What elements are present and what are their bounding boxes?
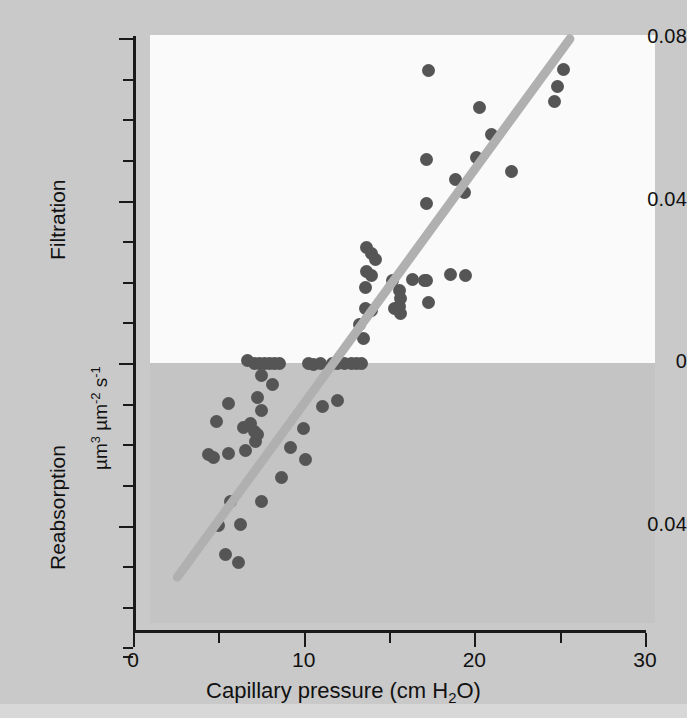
y-tick-major	[119, 201, 133, 203]
unit-um3-base: µm	[90, 443, 111, 470]
data-point	[458, 186, 471, 199]
data-point	[444, 268, 457, 281]
y-tick-minor	[123, 485, 133, 487]
data-point	[355, 357, 368, 370]
x-axis-title-post: O)	[456, 678, 480, 703]
data-point	[470, 151, 483, 164]
y-tick-label: 0.08	[577, 25, 687, 48]
unit-s-base: s	[90, 378, 111, 393]
y-tick-minor	[123, 119, 133, 121]
data-point	[422, 64, 435, 77]
axis-label-reabsorption: Reabsorption	[46, 445, 70, 570]
unit-um-exp: -2	[88, 392, 103, 403]
axis-label-filtration: Filtration	[46, 179, 70, 260]
y-tick-major	[119, 38, 133, 40]
y-axis-line	[133, 36, 136, 633]
data-point	[212, 519, 225, 532]
x-tick-major	[474, 633, 476, 647]
data-point	[357, 332, 370, 345]
x-tick-major	[645, 633, 647, 647]
y-tick-minor	[123, 79, 133, 81]
data-point	[420, 197, 433, 210]
axis-label-units: µm3 µm-2 s-1	[88, 366, 112, 470]
data-point	[219, 548, 232, 561]
x-tick-major	[133, 633, 135, 647]
data-point	[273, 357, 286, 370]
data-point	[299, 453, 312, 466]
y-tick-major	[119, 363, 133, 365]
data-point	[255, 369, 268, 382]
x-tick-label: 20	[444, 648, 504, 672]
y-tick-label: 0	[577, 350, 687, 373]
y-tick-minor	[123, 607, 133, 609]
unit-s-exp: -1	[88, 366, 103, 377]
y-tick-minor	[123, 322, 133, 324]
y-tick-major	[119, 526, 133, 528]
x-axis-title: Capillary pressure (cm H2O)	[0, 678, 687, 706]
y-tick-label: 0.04	[577, 188, 687, 211]
data-point	[557, 63, 570, 76]
y-tick-minor	[123, 160, 133, 162]
figure-root: 0.080.0400.04 0102030 Filtration Reabsor…	[0, 0, 687, 718]
x-tick-label: 30	[615, 648, 675, 672]
data-point	[207, 451, 220, 464]
x-tick-minor	[389, 633, 391, 643]
data-point	[359, 281, 372, 294]
x-tick-minor	[218, 633, 220, 643]
y-tick-minor	[123, 282, 133, 284]
y-tick-minor	[123, 241, 133, 243]
data-point	[449, 173, 462, 186]
data-point	[485, 128, 498, 141]
data-point	[255, 495, 268, 508]
data-point	[249, 435, 262, 448]
y-tick-minor	[123, 404, 133, 406]
y-tick-minor	[123, 566, 133, 568]
unit-um3-exp: 3	[88, 436, 103, 443]
y-tick-label: 0.04	[577, 513, 687, 536]
data-point	[255, 404, 268, 417]
x-tick-label: 0	[103, 648, 163, 672]
data-point	[239, 444, 252, 457]
x-tick-label: 10	[274, 648, 334, 672]
data-point	[369, 253, 382, 266]
data-point	[420, 274, 433, 287]
x-axis-title-pre: Capillary pressure (cm H	[206, 678, 448, 703]
x-tick-minor	[560, 633, 562, 643]
y-tick-minor	[123, 444, 133, 446]
unit-um-base: µm	[90, 404, 111, 436]
data-point	[297, 422, 310, 435]
data-point	[222, 447, 235, 460]
data-point	[284, 441, 297, 454]
x-tick-major	[304, 633, 306, 647]
